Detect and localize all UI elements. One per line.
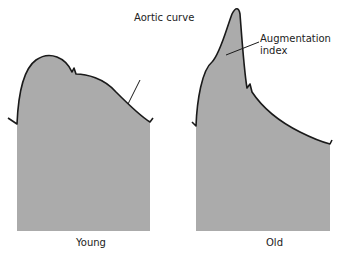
- diagram-title: Aortic curve: [134, 12, 194, 24]
- old-panel-label: Old: [266, 237, 283, 249]
- augmentation-label-line-1: Augmentation: [260, 33, 331, 45]
- augmentation-label-line-2: index: [260, 45, 331, 57]
- young-waveform: [8, 56, 153, 231]
- augmentation-index-label: Augmentation index: [260, 33, 331, 57]
- young-panel-label: Young: [76, 237, 106, 249]
- young-fill: [17, 56, 150, 231]
- young-reflection-pointer: [128, 80, 140, 104]
